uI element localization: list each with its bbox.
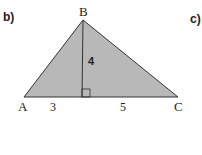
left-base-length-label: 3	[50, 100, 56, 114]
triangle-abc	[24, 20, 178, 97]
vertex-a-label: A	[18, 99, 28, 114]
altitude-length-label: 4	[88, 55, 95, 67]
vertex-b-label: B	[79, 4, 88, 19]
triangle-diagram: B A C 4 3 5	[0, 0, 202, 155]
right-base-length-label: 5	[120, 100, 126, 114]
vertex-c-label: C	[174, 99, 183, 114]
